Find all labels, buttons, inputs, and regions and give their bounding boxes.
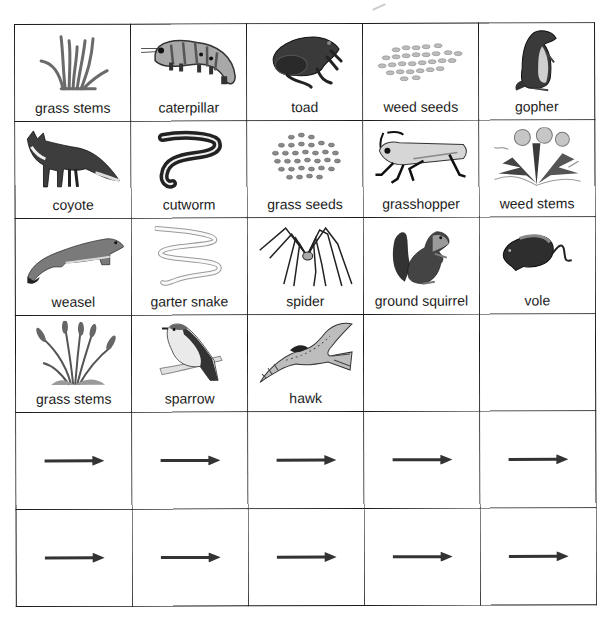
organism-label: grass stems bbox=[15, 100, 130, 116]
stray-pen-mark bbox=[372, 3, 386, 11]
arrow-right-icon bbox=[44, 553, 104, 563]
organism-card[interactable]: grass stems bbox=[15, 24, 131, 121]
arrow-right-icon bbox=[508, 551, 568, 561]
gopher-icon bbox=[479, 27, 594, 95]
organism-label: sparrow bbox=[132, 390, 247, 406]
organism-label: grass stems bbox=[16, 391, 131, 407]
grass-seeds-icon bbox=[247, 125, 362, 193]
arrow-right-icon bbox=[276, 455, 336, 465]
organism-label: grass seeds bbox=[248, 196, 363, 212]
toad-icon bbox=[247, 28, 362, 96]
organism-card[interactable]: weed stems bbox=[479, 120, 595, 217]
organism-card[interactable]: spider bbox=[247, 217, 363, 314]
organism-card[interactable]: vole bbox=[479, 217, 595, 314]
organism-label: caterpillar bbox=[131, 99, 246, 115]
arrow-card[interactable] bbox=[480, 411, 596, 508]
garter-snake-icon bbox=[132, 222, 247, 290]
organism-row: grass stems caterpillar bbox=[15, 23, 595, 122]
caterpillar-icon bbox=[131, 28, 246, 96]
arrow-right-icon bbox=[160, 455, 220, 465]
organism-card[interactable]: ground squirrel bbox=[363, 217, 479, 314]
food-web-worksheet: grass stems caterpillar bbox=[14, 22, 597, 607]
organism-card[interactable]: gopher bbox=[478, 23, 594, 120]
arrow-card[interactable] bbox=[364, 411, 480, 508]
arrow-card[interactable] bbox=[248, 411, 364, 508]
organism-label: gopher bbox=[479, 98, 594, 114]
spider-icon bbox=[248, 222, 363, 290]
arrow-row bbox=[16, 411, 596, 510]
organism-card[interactable]: toad bbox=[247, 23, 363, 120]
organism-card[interactable]: weed seeds bbox=[362, 23, 478, 120]
organism-card[interactable]: grass seeds bbox=[247, 120, 363, 217]
coyote-icon bbox=[15, 126, 130, 194]
arrow-card[interactable] bbox=[16, 412, 132, 509]
organism-card[interactable]: weasel bbox=[15, 218, 131, 315]
organism-label: cutworm bbox=[132, 196, 247, 212]
arrow-row bbox=[16, 508, 596, 607]
organism-label: hawk bbox=[248, 390, 363, 406]
arrow-card[interactable] bbox=[364, 508, 480, 605]
organism-label: grasshopper bbox=[364, 196, 479, 212]
arrow-right-icon bbox=[392, 552, 452, 562]
arrow-card[interactable] bbox=[132, 412, 248, 509]
organism-grid: grass stems caterpillar bbox=[14, 22, 597, 607]
organism-label: vole bbox=[480, 292, 595, 308]
organism-label: garter snake bbox=[132, 293, 247, 309]
organism-label: weed stems bbox=[480, 195, 595, 211]
organism-card[interactable]: hawk bbox=[247, 314, 363, 411]
arrow-right-icon bbox=[508, 454, 568, 464]
organism-card[interactable]: coyote bbox=[15, 121, 131, 218]
organism-label: toad bbox=[247, 99, 362, 115]
empty-card[interactable] bbox=[363, 314, 479, 411]
organism-label: weasel bbox=[16, 294, 131, 310]
grasshopper-icon bbox=[363, 125, 478, 193]
arrow-card[interactable] bbox=[480, 508, 596, 605]
organism-label: ground squirrel bbox=[364, 293, 479, 309]
organism-card[interactable]: sparrow bbox=[131, 315, 247, 412]
sparrow-icon bbox=[132, 319, 247, 387]
weed-seeds-icon bbox=[363, 28, 478, 96]
arrow-right-icon bbox=[160, 552, 220, 562]
organism-row: weasel garter snake spider bbox=[15, 217, 595, 316]
organism-label: coyote bbox=[16, 197, 131, 213]
organism-row: coyote cutworm grass seed bbox=[15, 120, 595, 219]
arrow-card[interactable] bbox=[16, 509, 132, 606]
weed-stems-icon bbox=[479, 124, 594, 192]
organism-card[interactable]: caterpillar bbox=[131, 24, 247, 121]
arrow-right-icon bbox=[276, 552, 336, 562]
arrow-right-icon bbox=[44, 456, 104, 466]
grass-stems-tall-icon bbox=[16, 320, 131, 388]
vole-icon bbox=[480, 221, 595, 289]
ground-squirrel-icon bbox=[364, 222, 479, 290]
hawk-icon bbox=[248, 319, 363, 387]
organism-label: spider bbox=[248, 293, 363, 309]
organism-card[interactable]: grass stems bbox=[15, 315, 131, 412]
arrow-card[interactable] bbox=[248, 508, 364, 605]
organism-label: weed seeds bbox=[363, 99, 478, 115]
cutworm-icon bbox=[131, 125, 246, 193]
arrow-card[interactable] bbox=[132, 509, 248, 606]
arrow-right-icon bbox=[392, 455, 452, 465]
organism-row: grass stems sparrow bbox=[15, 314, 595, 413]
organism-card[interactable]: cutworm bbox=[131, 121, 247, 218]
empty-card[interactable] bbox=[479, 314, 595, 411]
weasel-icon bbox=[16, 223, 131, 291]
organism-card[interactable]: garter snake bbox=[131, 218, 247, 315]
grass-stems-icon bbox=[15, 29, 130, 97]
organism-card[interactable]: grasshopper bbox=[363, 120, 479, 217]
